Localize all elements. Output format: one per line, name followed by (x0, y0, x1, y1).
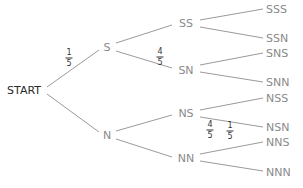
node-ssn: SSN (266, 33, 288, 44)
node-sns: SNS (266, 48, 288, 59)
tree-branches (0, 0, 303, 188)
fraction-denominator: 5 (157, 58, 162, 67)
branch-sn-snn (200, 72, 263, 82)
fraction-numerator: 4 (156, 48, 163, 58)
fraction-ns-nsn: 4 5 (206, 121, 213, 140)
branch-s-ss (116, 25, 172, 43)
probability-tree-diagram: START S N SS SN NS NN SSS SSN SNS SNN NS… (0, 0, 303, 188)
fraction-start-s: 1 5 (65, 49, 72, 68)
branch-ns-nss (200, 98, 263, 110)
fraction-denominator: 5 (227, 132, 232, 141)
fraction-s-sn: 4 5 (156, 48, 163, 67)
node-snn: SNN (266, 77, 289, 88)
branch-nn-nnn (200, 161, 263, 171)
node-nss: NSS (266, 93, 288, 104)
node-nsn: NSN (266, 122, 289, 133)
branch-ss-sss (200, 9, 263, 20)
node-n: N (103, 130, 111, 141)
node-nnn: NNN (266, 167, 291, 178)
node-nn: NN (178, 153, 194, 164)
node-ns: NS (178, 108, 193, 119)
fraction-denominator: 5 (66, 59, 71, 68)
branch-nn-nns (200, 142, 263, 154)
branch-start-n (47, 94, 99, 132)
branch-s-sn (116, 51, 172, 68)
node-sn: SN (178, 65, 193, 76)
fraction-numerator: 4 (206, 121, 213, 131)
fraction-numerator: 1 (65, 49, 72, 59)
fraction-nn-nns: 1 5 (226, 122, 233, 141)
node-sss: SSS (266, 4, 287, 15)
branch-n-ns (116, 115, 172, 131)
node-nns: NNS (266, 137, 289, 148)
branch-start-s (47, 50, 99, 87)
node-start: START (7, 85, 41, 96)
fraction-denominator: 5 (207, 131, 212, 140)
node-ss: SS (179, 18, 193, 29)
branch-ss-ssn (200, 27, 263, 38)
fraction-numerator: 1 (226, 122, 233, 132)
branch-sn-sns (200, 53, 263, 65)
node-s: S (104, 42, 111, 53)
branch-n-nn (116, 139, 172, 157)
